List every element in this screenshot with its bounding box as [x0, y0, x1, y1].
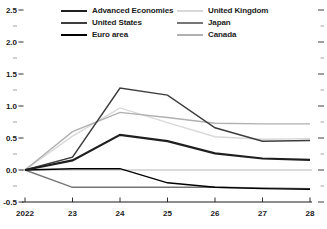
legend-label-canada: Canada	[208, 29, 236, 41]
legend-swatch-japan	[177, 22, 203, 23]
x-axis-label: 25	[163, 209, 172, 218]
legend-label-united-states: United States	[92, 17, 142, 29]
legend-column-right: United Kingdom Japan Canada	[177, 5, 268, 41]
x-axis-label: 27	[258, 209, 267, 218]
legend-label-united-kingdom: United Kingdom	[208, 5, 268, 17]
x-axis-label: 23	[68, 209, 77, 218]
legend-label-advanced-economies: Advanced Economies	[92, 5, 173, 17]
x-axis-label: 26	[211, 209, 220, 218]
line-chart-figure: 2022232425262728-0.50.00.51.01.52.02.5 A…	[0, 0, 327, 229]
y-axis-label: 2.0	[6, 38, 18, 47]
legend-swatch-advanced-economies	[61, 10, 87, 12]
legend-item-united-kingdom: United Kingdom	[177, 5, 268, 17]
x-axis-label: 2022	[16, 209, 34, 218]
legend-column-left: Advanced Economies United States Euro ar…	[61, 5, 177, 41]
legend-label-japan: Japan	[208, 17, 231, 29]
legend-swatch-canada	[177, 34, 203, 35]
legend-item-japan: Japan	[177, 17, 268, 29]
series-line-japan	[25, 170, 310, 189]
legend-swatch-united-kingdom	[177, 10, 203, 11]
y-axis-label: 0.5	[6, 134, 18, 143]
y-axis-label: 2.5	[6, 6, 18, 15]
legend-item-united-states: United States	[61, 17, 177, 29]
legend-label-euro-area: Euro area	[92, 29, 128, 41]
y-axis-label: 0.0	[6, 166, 18, 175]
legend-swatch-euro-area	[61, 34, 87, 35]
x-axis-label: 28	[306, 209, 315, 218]
legend-item-euro-area: Euro area	[61, 29, 177, 41]
x-axis-label: 24	[116, 209, 125, 218]
legend-item-advanced-economies: Advanced Economies	[61, 5, 177, 17]
legend-swatch-united-states	[61, 22, 87, 24]
chart-legend: Advanced Economies United States Euro ar…	[61, 5, 268, 41]
y-axis-label: 1.0	[6, 102, 18, 111]
y-axis-label: 1.5	[6, 70, 18, 79]
y-axis-label: -0.5	[3, 198, 17, 207]
legend-item-canada: Canada	[177, 29, 268, 41]
